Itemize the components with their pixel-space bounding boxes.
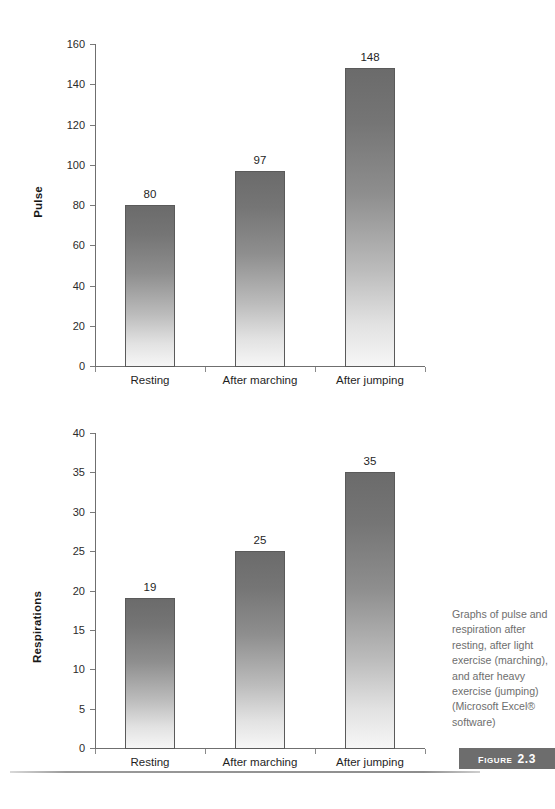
bar [125,598,175,749]
y-tick-mark [90,165,95,166]
x-tick-mark [95,749,96,754]
y-tick-label: 80 [47,200,85,211]
y-tick-label: 25 [47,546,85,557]
y-tick-mark [90,551,95,552]
x-tick-mark [95,367,96,372]
y-tick-label: 0 [47,743,85,754]
y-tick-mark [90,669,95,670]
page-bottom-rule [10,771,480,773]
y-tick-label: 60 [47,240,85,251]
caption-line: Graphs of pulse and [452,607,555,622]
x-tick-label: Resting [90,375,210,387]
bar-value-label: 80 [120,189,180,201]
figure-badge-word: Figure [478,751,512,766]
y-tick-mark [90,512,95,513]
bar-value-label: 25 [230,535,290,547]
y-axis-line [95,433,96,749]
y-tick-mark [90,591,95,592]
y-tick-label: 10 [47,664,85,675]
y-tick-mark [90,84,95,85]
bar [345,68,395,367]
figure-number-badge: Figure 2.3 [459,748,555,769]
x-tick-label: After jumping [310,757,430,769]
caption-line: and after heavy [452,669,555,684]
y-tick-label: 15 [47,625,85,636]
x-tick-mark [315,749,316,754]
x-tick-label: Resting [90,757,210,769]
y-tick-label: 35 [47,467,85,478]
bar [125,205,175,367]
x-tick-mark [425,367,426,372]
caption-line: respiration after [452,622,555,637]
y-tick-mark [90,709,95,710]
bar [235,171,285,367]
bar-value-label: 148 [340,52,400,64]
pulse-y-axis-title: Pulse [32,162,44,242]
caption-line: software) [452,715,555,730]
y-tick-mark [90,245,95,246]
y-tick-label: 40 [47,428,85,439]
caption-line: exercise (marching), [452,653,555,668]
caption-line: exercise (jumping) [452,684,555,699]
y-tick-mark [90,286,95,287]
y-tick-mark [90,44,95,45]
y-tick-label: 20 [47,321,85,332]
respirations-y-axis-title: Respirations [31,572,43,682]
bar-value-label: 35 [340,456,400,468]
x-tick-mark [205,749,206,754]
x-tick-label: After jumping [310,375,430,387]
y-tick-mark [90,630,95,631]
y-tick-label: 40 [47,281,85,292]
y-tick-label: 120 [47,120,85,131]
x-tick-label: After marching [200,375,320,387]
bar [345,472,395,749]
y-tick-label: 0 [47,361,85,372]
figure-caption: Graphs of pulse and respiration after re… [452,607,555,730]
x-tick-mark [315,367,316,372]
y-tick-label: 5 [47,704,85,715]
y-axis-line [95,44,96,367]
y-tick-label: 100 [47,160,85,171]
y-tick-mark [90,326,95,327]
y-tick-mark [90,205,95,206]
x-tick-label: After marching [200,757,320,769]
y-tick-label: 20 [47,586,85,597]
y-tick-mark [90,433,95,434]
pulse-plot-area: 02040608010012014016080Resting97After ma… [0,0,440,395]
pulse-bar-chart: 02040608010012014016080Resting97After ma… [0,0,440,395]
respirations-plot-area: 051015202530354019Resting25After marchin… [0,405,440,785]
x-tick-mark [425,749,426,754]
bar-value-label: 97 [230,155,290,167]
y-tick-label: 140 [47,79,85,90]
caption-line: (Microsoft Excel® [452,699,555,714]
respirations-bar-chart: 051015202530354019Resting25After marchin… [0,405,440,785]
caption-line: resting, after light [452,638,555,653]
x-tick-mark [205,367,206,372]
y-tick-label: 160 [47,39,85,50]
bar-value-label: 19 [120,582,180,594]
y-tick-label: 30 [47,507,85,518]
bar [235,551,285,749]
y-tick-mark [90,472,95,473]
figure-badge-number: 2.3 [517,752,535,766]
y-tick-mark [90,125,95,126]
